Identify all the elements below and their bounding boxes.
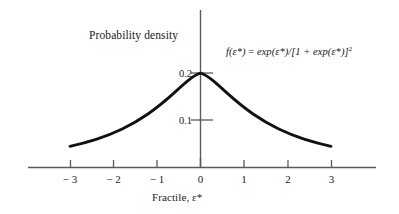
formula-exponent: 2 [349,45,353,53]
x-tick-label-1: 1 [229,173,259,185]
formula-numerator: exp(ε*) [257,46,288,57]
y-tick-label-0.1: 0.1 [164,115,192,126]
y-axis-title: Probability density [89,30,178,42]
x-tick-label-3: 3 [317,173,347,185]
x-tick-label-2: 2 [273,173,303,185]
x-tick-label--1: − 1 [142,173,172,185]
x-tick-label-0: 0 [186,173,216,185]
x-axis-title: Fractile, ε* [152,192,202,203]
formula-equals: = [248,46,254,57]
y-tick-label-0.2: 0.2 [164,68,192,79]
probability-density-figure: Probability density f(ε*) = exp(ε*)/[1 +… [0,0,399,214]
x-tick-label--3: − 3 [55,173,85,185]
x-tick-label--2: − 2 [99,173,129,185]
formula-denominator: [1 + exp(ε*)] [291,46,348,57]
formula-lhs: f(ε*) [226,46,246,57]
formula-annotation: f(ε*) = exp(ε*)/[1 + exp(ε*)]2 [226,47,352,58]
